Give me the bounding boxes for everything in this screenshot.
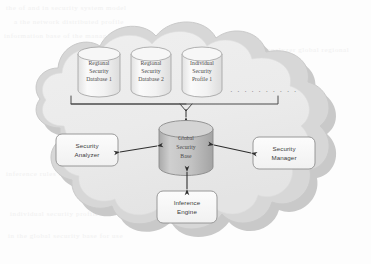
- cylinder-top: [78, 47, 120, 61]
- db1-line2: Security: [89, 68, 108, 74]
- security-analyzer[interactable]: Security Analyzer: [56, 134, 118, 166]
- profile1-line3: Profile 1: [192, 76, 212, 82]
- databases-ellipsis: · · · · · · · · · ·: [230, 87, 298, 96]
- individual-security-profile-1[interactable]: Individual Security Profile 1: [182, 47, 222, 97]
- db2-line2: Security: [141, 68, 160, 74]
- db1-line1: Regional: [89, 60, 110, 66]
- component-box: [56, 134, 118, 166]
- manager-line2: Manager: [271, 154, 296, 161]
- component-box: [157, 191, 217, 223]
- inference-line1: Inference: [174, 199, 201, 206]
- regional-security-database-1[interactable]: Regional Security Database 1: [78, 47, 120, 97]
- ghost-line: a the network distributed profile: [14, 18, 124, 26]
- analyzer-line2: Analyzer: [75, 151, 100, 158]
- ghost-line: the of and in security system model: [6, 4, 127, 12]
- diagram-canvas: the of and in security system model a th…: [0, 0, 371, 264]
- gsb-line3: Base: [180, 153, 192, 159]
- ghost-line: in the global security base for use: [8, 232, 123, 240]
- component-box: [253, 137, 315, 169]
- cylinder-top: [131, 47, 171, 61]
- security-manager[interactable]: Security Manager: [253, 137, 315, 169]
- profile1-line1: Individual: [190, 60, 214, 66]
- global-security-base[interactable]: Global Security Base: [159, 121, 213, 176]
- gsb-line1: Global: [178, 135, 194, 141]
- db2-line3: Database 2: [138, 76, 164, 82]
- security-architecture-diagram: the of and in security system model a th…: [0, 0, 371, 264]
- manager-line1: Security: [272, 145, 296, 152]
- db1-line3: Database 1: [86, 76, 112, 82]
- profile1-line2: Security: [192, 68, 211, 74]
- gsb-line2: Security: [176, 144, 195, 150]
- cylinder-top: [182, 47, 222, 61]
- regional-security-database-2[interactable]: Regional Security Database 2: [131, 47, 171, 97]
- inference-engine[interactable]: Inference Engine: [157, 191, 217, 223]
- analyzer-line1: Security: [75, 142, 99, 149]
- inference-line2: Engine: [177, 208, 197, 215]
- db2-line1: Regional: [141, 60, 162, 66]
